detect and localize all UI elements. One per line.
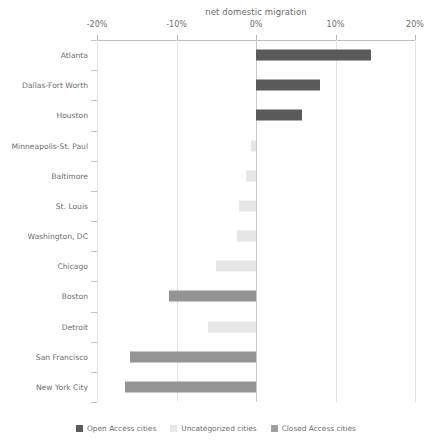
legend-label: Closed Access cities: [282, 424, 356, 433]
category-tick-mark: [91, 191, 97, 192]
category-label: Houston: [56, 111, 88, 120]
bar: [130, 351, 256, 362]
bar: [208, 321, 256, 332]
chart-legend: Open Access citiesUncategorized citiesCl…: [0, 424, 432, 433]
category-tick-mark: [91, 281, 97, 282]
x-tick-label: 10%: [327, 20, 345, 29]
category-label: Detroit: [62, 322, 88, 331]
category-label: Chicago: [57, 262, 88, 271]
net-domestic-migration-chart: net domestic migration -20%-10%0%10%20% …: [0, 0, 432, 441]
category-label: Dallas-Fort Worth: [22, 81, 88, 90]
bar: [169, 291, 256, 302]
bar: [251, 140, 256, 151]
category-label: New York City: [36, 382, 88, 391]
zero-gridline: [256, 40, 257, 402]
category-tick-mark: [91, 372, 97, 373]
legend-label: Uncategorized cities: [181, 424, 256, 433]
category-label: Atlanta: [61, 51, 88, 60]
legend-swatch-icon: [76, 425, 83, 432]
gridline: [336, 40, 337, 402]
category-tick-mark: [91, 100, 97, 101]
bar: [237, 231, 256, 242]
category-label: San Francisco: [36, 352, 88, 361]
category-tick-mark: [91, 342, 97, 343]
category-tick-mark: [91, 251, 97, 252]
x-tick-label: -10%: [166, 20, 187, 29]
legend-swatch-icon: [170, 425, 177, 432]
category-tick-mark: [91, 131, 97, 132]
legend-item[interactable]: Closed Access cities: [271, 424, 356, 433]
legend-label: Open Access cities: [87, 424, 156, 433]
gridline: [97, 40, 98, 402]
category-label: Washington, DC: [27, 232, 88, 241]
category-tick-mark: [91, 161, 97, 162]
legend-item[interactable]: Open Access cities: [76, 424, 156, 433]
category-label: Boston: [62, 292, 88, 301]
category-tick-mark: [91, 312, 97, 313]
x-tick-label: -20%: [87, 20, 108, 29]
bar: [246, 170, 256, 181]
bar: [256, 50, 371, 61]
bar: [256, 80, 320, 91]
legend-item[interactable]: Uncategorized cities: [170, 424, 256, 433]
gridline: [177, 40, 178, 402]
plot-area: [97, 40, 415, 402]
category-label: Baltimore: [51, 171, 88, 180]
category-tick-mark: [91, 40, 97, 41]
bar: [256, 110, 302, 121]
category-axis-labels: AtlantaDallas-Fort WorthHoustonMinneapol…: [0, 40, 92, 402]
category-tick-mark: [91, 402, 97, 403]
x-tick-label: 20%: [406, 20, 424, 29]
legend-swatch-icon: [271, 425, 278, 432]
bar: [216, 261, 256, 272]
category-label: Minneapolis-St. Paul: [12, 141, 88, 150]
category-label: St. Louis: [56, 201, 88, 210]
category-tick-mark: [91, 70, 97, 71]
x-tick-label: 0%: [250, 20, 263, 29]
bar: [239, 200, 256, 211]
bar: [125, 381, 256, 392]
gridline: [415, 40, 416, 402]
chart-title: net domestic migration: [97, 7, 415, 17]
category-tick-mark: [91, 221, 97, 222]
